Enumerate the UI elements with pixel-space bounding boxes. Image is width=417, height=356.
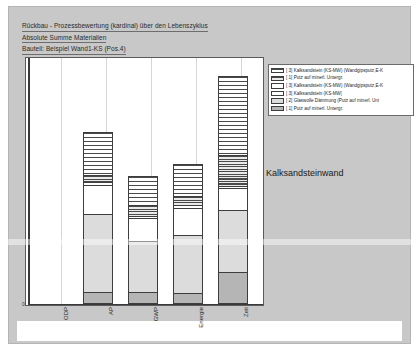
legend-item[interactable]: [ 3] Kalksandstein (KS-MW) (Wandgipsputz… xyxy=(271,82,411,90)
legend-item-label: [ 1] Putz auf minerl. Untergr. xyxy=(286,75,343,81)
legend-item-label: [ 3] Kalksandstein (KS-MW) xyxy=(286,91,342,97)
x-label-zeit: Zeit xyxy=(243,307,249,317)
bar-ap-seg-5 xyxy=(84,176,112,183)
x-label-odp: ODP xyxy=(63,307,69,320)
bar-gwp-seg-1 xyxy=(129,293,157,303)
legend-swatch-icon xyxy=(271,106,284,111)
bar-ap[interactable] xyxy=(83,132,113,304)
bar-gwp[interactable] xyxy=(128,176,158,304)
legend-item[interactable]: [ 2] Glaswolle Dämmung (Putz auf minerl.… xyxy=(271,97,411,105)
legend-item-label: [ 1] Putz auf minerl. Untergr. xyxy=(286,106,343,112)
legend-item[interactable]: [ 3] Kalksandstein (KS-MW) xyxy=(271,90,411,98)
bar-energie-seg-5 xyxy=(174,197,202,206)
bar-gwp-seg-3 xyxy=(129,219,157,242)
bar-zeit-seg-1 xyxy=(219,273,247,303)
bar-ap-seg-6 xyxy=(84,133,112,176)
bar-ap-seg-1 xyxy=(84,293,112,303)
screenshot-root: Rückbau - Prozessbewertung (kardinal) üb… xyxy=(0,0,417,356)
legend-item-label: [ 2] Glaswolle Dämmung (Putz auf minerl.… xyxy=(286,98,379,104)
bar-energie[interactable] xyxy=(173,164,203,304)
chart-title-block: Rückbau - Prozessbewertung (kardinal) üb… xyxy=(22,21,282,56)
legend-swatch-icon xyxy=(271,98,284,103)
legend-item-label: [ 3] Kalksandstein (KS-MW) (Wandgipsputz… xyxy=(286,68,383,74)
bar-energie-seg-6 xyxy=(174,165,202,197)
bar-zeit-seg-3 xyxy=(219,189,247,211)
side-caption: Kalksandsteinwand xyxy=(266,168,344,178)
chart-legend: [ 3] Kalksandstein (KS-MW) (Wandgipsputz… xyxy=(268,64,414,116)
chart-title-line-2: Absolute Summe Materialien xyxy=(22,33,106,44)
bar-ap-seg-2 xyxy=(84,215,112,293)
bar-zeit[interactable] xyxy=(218,76,248,304)
bar-energie-seg-1 xyxy=(174,294,202,303)
legend-item[interactable]: [ 3] Kalksandstein (KS-MW) (Wandgipsputz… xyxy=(271,67,411,75)
bar-ap-seg-3 xyxy=(84,186,112,216)
legend-item[interactable]: [ 1] Putz auf minerl. Untergr. xyxy=(271,75,411,83)
bar-zeit-seg-6 xyxy=(219,77,247,156)
x-axis-labels: ODP AP GWP Energie Zeit xyxy=(25,307,264,341)
legend-swatch-icon xyxy=(271,83,284,88)
x-label-ap: AP xyxy=(108,307,114,315)
bar-gwp-seg-5 xyxy=(129,206,157,217)
legend-swatch-icon xyxy=(271,91,284,96)
chart-plot-frame: 0 xyxy=(25,57,264,306)
x-label-energie: Energie xyxy=(198,307,204,328)
chart-title-line-3: Bauteil: Beispiel Wand1-KS (Pos.4) xyxy=(22,44,126,55)
bar-gwp-seg-6 xyxy=(129,177,157,206)
bar-energie-seg-3 xyxy=(174,209,202,237)
gridline-odp xyxy=(61,58,62,305)
x-axis xyxy=(28,304,263,305)
bar-zeit-seg-2 xyxy=(219,211,247,273)
bar-zeit-seg-5 xyxy=(219,156,247,187)
legend-item[interactable]: [ 1] Putz auf minerl. Untergr. xyxy=(271,105,411,113)
legend-item-label: [ 3] Kalksandstein (KS-MW) (Wandgipsputz… xyxy=(286,83,383,89)
legend-swatch-icon xyxy=(271,76,284,81)
legend-swatch-icon xyxy=(271,68,284,73)
chart-plot-area: 0 xyxy=(26,58,263,305)
bar-gwp-seg-2 xyxy=(129,242,157,293)
y-axis xyxy=(28,58,30,305)
chart-title-line-1: Rückbau - Prozessbewertung (kardinal) üb… xyxy=(22,21,208,32)
bar-energie-seg-2 xyxy=(174,236,202,294)
x-label-gwp: GWP xyxy=(153,307,159,321)
